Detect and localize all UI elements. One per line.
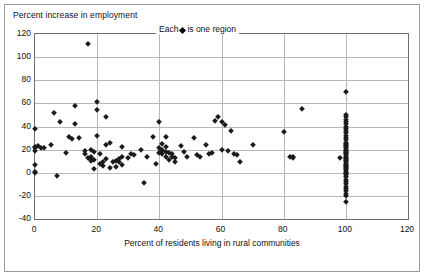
- data-point: [48, 142, 54, 148]
- data-point: [153, 161, 159, 167]
- data-point: [156, 119, 162, 125]
- chart-figure: Percent increase in employment -40-20020…: [4, 4, 420, 272]
- data-point: [100, 163, 106, 169]
- data-point: [138, 147, 144, 153]
- data-point: [343, 89, 349, 95]
- data-point: [228, 128, 234, 134]
- data-point: [141, 180, 147, 186]
- legend-text-before: Each: [159, 24, 178, 34]
- y-axis-tick-labels: -40-20020406080100120: [5, 33, 31, 220]
- data-point: [119, 162, 125, 168]
- y-tick-label: 0: [7, 167, 31, 177]
- y-tick-label: 80: [7, 74, 31, 84]
- x-tick-label: 80: [268, 224, 298, 234]
- data-point: [76, 135, 82, 141]
- data-point: [219, 147, 225, 153]
- diamond-marker-icon: [179, 27, 186, 34]
- data-point: [337, 155, 343, 161]
- y-tick-label: 20: [7, 144, 31, 154]
- y-axis-title: Percent increase in employment: [13, 10, 137, 20]
- data-point: [85, 41, 91, 47]
- y-tick-label: -40: [7, 213, 31, 223]
- data-point: [144, 154, 150, 160]
- x-tick-label: 120: [392, 224, 422, 234]
- data-point: [63, 150, 69, 156]
- data-point: [32, 162, 38, 168]
- y-tick-label: -20: [7, 190, 31, 200]
- y-tick-label: 40: [7, 121, 31, 131]
- data-point: [57, 119, 63, 125]
- data-point: [203, 142, 209, 148]
- data-point: [299, 106, 305, 112]
- x-tick-label: 60: [206, 224, 236, 234]
- data-point: [234, 152, 240, 158]
- y-tick-label: 120: [7, 28, 31, 38]
- data-point: [343, 199, 349, 205]
- gridline-vertical: [284, 34, 285, 219]
- data-point: [69, 136, 75, 142]
- data-point: [237, 159, 243, 165]
- y-tick-label: 100: [7, 51, 31, 61]
- x-axis-tick-labels: 020406080100120: [34, 224, 409, 236]
- data-point: [113, 164, 119, 170]
- data-point: [91, 166, 97, 172]
- data-point: [250, 142, 256, 148]
- data-point: [94, 133, 100, 139]
- x-tick-label: 0: [19, 224, 49, 234]
- data-point: [197, 154, 203, 160]
- gridline-vertical: [222, 34, 223, 219]
- data-point: [94, 107, 100, 113]
- data-point: [184, 154, 190, 160]
- x-tick-label: 40: [143, 224, 173, 234]
- data-point: [51, 110, 57, 116]
- data-point: [150, 134, 156, 140]
- data-point: [104, 156, 110, 162]
- gridline-vertical: [97, 34, 98, 219]
- data-point: [281, 129, 287, 135]
- data-point: [54, 173, 60, 179]
- x-tick-label: 100: [330, 224, 360, 234]
- data-point: [97, 151, 103, 157]
- x-tick-label: 20: [81, 224, 111, 234]
- data-point: [107, 165, 113, 171]
- data-point: [119, 154, 125, 160]
- data-point: [163, 134, 169, 140]
- y-tick-label: 60: [7, 97, 31, 107]
- data-point: [104, 114, 110, 120]
- gridline-vertical: [159, 34, 160, 219]
- plot-area: [34, 33, 409, 220]
- legend-text-after: is one region: [187, 24, 236, 34]
- chart-legend: Eachis one region: [156, 24, 239, 34]
- x-axis-title: Percent of residents living in rural com…: [5, 238, 419, 248]
- data-point: [191, 135, 197, 141]
- data-point: [131, 152, 137, 158]
